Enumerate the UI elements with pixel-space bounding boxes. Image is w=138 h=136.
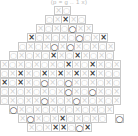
cell-x-mark: × — [90, 106, 97, 113]
board-gap — [36, 15, 45, 24]
board-gap — [18, 123, 27, 132]
cell-x-mark: × — [70, 16, 77, 23]
board-gap — [91, 123, 100, 132]
cell-o-mark: ○ — [36, 34, 43, 41]
cell-x-mark: × — [74, 106, 81, 113]
cell-o-mark-highlighted: ○ — [65, 79, 72, 86]
board-gap — [121, 15, 130, 24]
cell-o-mark: ○ — [106, 52, 113, 59]
board-row: ○×○×○××○×○×○× — [0, 105, 138, 114]
cell-x-mark: × — [107, 43, 114, 50]
cell-o-mark-highlighted: ○ — [69, 25, 76, 32]
cell-x-mark: × — [113, 88, 120, 95]
cell-o-mark: ○ — [41, 61, 48, 68]
board-cell[interactable]: × — [112, 96, 121, 105]
board-gap — [0, 33, 9, 42]
cell-o-mark: ○ — [42, 106, 49, 113]
cell-o-mark: ○ — [105, 61, 112, 68]
cell-x-mark: × — [60, 34, 67, 41]
cell-o-mark: ○ — [26, 52, 33, 59]
cell-x-mark: × — [17, 61, 24, 68]
cell-o-mark: ○ — [81, 88, 88, 95]
cell-o-mark: ○ — [52, 34, 59, 41]
xo-board[interactable]: ×○○×××○×○×○○×××○×○×○○○××○×○×○×○×○×○×○×○×… — [0, 6, 138, 136]
cell-x-mark: × — [50, 106, 57, 113]
cell-x-mark: × — [19, 115, 26, 122]
cell-o-mark: ○ — [57, 79, 64, 86]
board-row: ×○×○○×× — [0, 24, 138, 33]
board-row: ○×××○ — [0, 15, 138, 24]
cell-o-mark: ○ — [10, 52, 17, 59]
board-row: ○×××○××××××××○○ — [0, 69, 138, 78]
board-gap — [0, 114, 9, 123]
cell-o-mark: ○ — [33, 79, 40, 86]
cell-o-mark: ○ — [105, 88, 112, 95]
board-gap — [92, 24, 101, 33]
cell-o-mark: ○ — [9, 79, 16, 86]
board-gap — [9, 114, 18, 123]
cell-x-mark: × — [92, 34, 99, 41]
cell-o-mark: ○ — [57, 97, 64, 104]
cell-x-mark: × — [49, 61, 56, 68]
cell-x-mark-highlighted: × — [100, 34, 107, 41]
cell-x-mark: × — [49, 70, 56, 77]
cell-x-mark: × — [77, 25, 84, 32]
board-cell[interactable]: × — [112, 60, 121, 69]
cell-x-mark-highlighted: × — [60, 124, 67, 131]
cell-x-mark: × — [35, 115, 42, 122]
cell-x-mark: × — [49, 79, 56, 86]
board-gap — [9, 33, 18, 42]
cell-x-mark: × — [57, 88, 64, 95]
cell-x-mark: × — [51, 115, 58, 122]
cell-o-mark: ○ — [84, 34, 91, 41]
cell-x-mark: × — [73, 61, 80, 68]
diamond-grid-figure: (p = g .. 1 x) ×○○×××○×○×○○×××○×○×○○○××○… — [0, 0, 138, 136]
cell-o-mark-highlighted: ○ — [76, 34, 83, 41]
board-gap — [116, 33, 125, 42]
cell-o-mark: ○ — [57, 61, 64, 68]
board-cell[interactable]: × — [112, 87, 121, 96]
board-gap — [0, 42, 9, 51]
cell-x-mark-highlighted: × — [1, 79, 8, 86]
cell-x-mark-highlighted: × — [73, 70, 80, 77]
cell-o-mark: ○ — [33, 88, 40, 95]
board-gap — [118, 123, 127, 132]
cell-x-mark-highlighted: × — [62, 16, 69, 23]
cell-x-mark: × — [73, 88, 80, 95]
board-gap — [70, 6, 79, 15]
cell-x-mark-highlighted: × — [17, 70, 24, 77]
cell-x-mark: × — [97, 70, 104, 77]
cell-x-mark: × — [65, 70, 72, 77]
board-row: ×○××○○×○○×○×○×○ — [0, 78, 138, 87]
cell-x-mark: × — [73, 79, 80, 86]
cell-o-mark: ○ — [97, 79, 104, 86]
board-cell[interactable]: ○ — [115, 114, 124, 123]
cell-o-mark: ○ — [82, 106, 89, 113]
board-gap — [79, 6, 88, 15]
cell-o-mark: ○ — [81, 79, 88, 86]
board-gap — [9, 123, 18, 132]
cell-x-mark: × — [18, 52, 25, 59]
cell-o-mark: ○ — [42, 52, 49, 59]
board-cell[interactable]: ○ — [112, 78, 121, 87]
cell-x-mark: × — [55, 7, 62, 14]
board-gap — [0, 123, 9, 132]
cell-o-mark: ○ — [83, 43, 90, 50]
cell-x-mark: × — [75, 115, 82, 122]
cell-o-mark-highlighted: ○ — [67, 43, 74, 50]
cell-x-mark: × — [28, 124, 35, 131]
board-gap — [0, 15, 9, 24]
board-row: ×○×○×○○○×× — [0, 33, 138, 42]
board-gap — [106, 114, 115, 123]
cell-x-mark: × — [82, 52, 89, 59]
cell-o-mark: ○ — [1, 70, 8, 77]
board-gap — [107, 33, 116, 42]
board-gap — [27, 24, 36, 33]
cell-o-mark: ○ — [9, 61, 16, 68]
board-row: ×○×○××○×○×○○ — [0, 114, 138, 123]
board-gap — [115, 6, 124, 15]
board-cell[interactable]: ○ — [112, 69, 121, 78]
board-gap — [124, 6, 133, 15]
board-gap — [101, 24, 110, 33]
cell-x-mark: × — [53, 25, 60, 32]
